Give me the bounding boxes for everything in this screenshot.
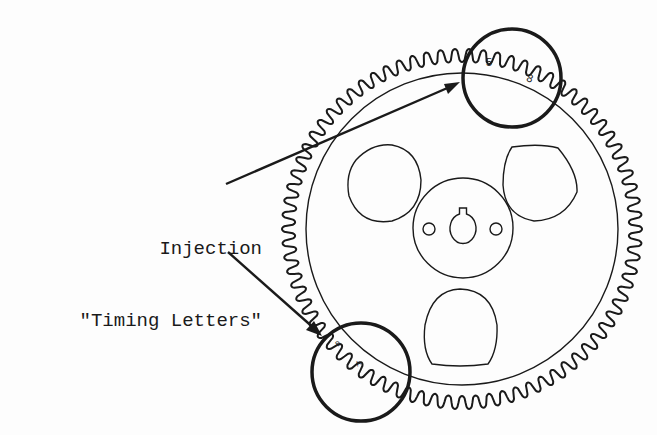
leader-line-top xyxy=(226,86,452,184)
gear-teeth xyxy=(282,49,642,409)
gear-diagram: 5 8 B A Injection "Timing Letters" xyxy=(0,0,657,435)
timing-mark-top-1: 5 xyxy=(486,56,492,68)
injection-timing-letters-label: Injection "Timing Letters" xyxy=(72,189,262,381)
lobe-hole-bottom xyxy=(424,289,497,366)
lobe-hole-upper-right xyxy=(503,145,577,221)
bolt-hole-left xyxy=(423,223,435,235)
lobe-hole-upper-left xyxy=(348,145,421,222)
callout-circle-bottom xyxy=(312,323,410,421)
hub-circle xyxy=(413,178,513,278)
inner-rim-circle xyxy=(306,73,618,385)
keyed-shaft-bore xyxy=(450,208,476,243)
label-line-1: Injection xyxy=(72,237,262,261)
label-line-2: "Timing Letters" xyxy=(72,309,262,333)
arrowhead-top-icon xyxy=(444,82,460,94)
bolt-hole-right xyxy=(490,223,502,235)
callout-circle-top xyxy=(463,29,561,127)
